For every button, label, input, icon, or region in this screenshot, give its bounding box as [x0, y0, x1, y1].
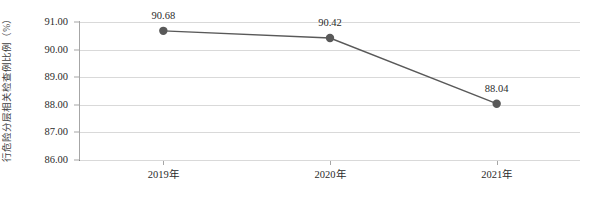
data-point-marker[interactable] [492, 99, 500, 107]
data-point-marker[interactable] [159, 27, 167, 35]
x-axis-tick-label: 2020年 [315, 170, 346, 181]
line-chart: 行危险分层相关检查例比例（%） 91.0090.0089.0088.0087.0… [0, 0, 596, 199]
y-axis-tick-mark [74, 132, 79, 133]
y-axis-tick-mark [74, 104, 79, 105]
x-axis-tick-mark [330, 161, 331, 165]
data-point-label: 90.42 [318, 18, 342, 29]
y-axis-tick-mark [74, 22, 79, 23]
data-point-label: 88.04 [485, 84, 509, 95]
y-axis-tick-mark [74, 77, 79, 78]
y-axis-tick-mark [74, 160, 79, 161]
data-point-marker[interactable] [326, 34, 334, 42]
data-point-label: 90.68 [152, 11, 176, 22]
x-axis-tick-mark [163, 161, 164, 165]
x-axis-tick-label: 2019年 [148, 170, 179, 181]
x-axis-tick-mark [497, 161, 498, 165]
y-axis-tick-mark [74, 49, 79, 50]
x-axis-tick-label: 2021年 [481, 170, 512, 181]
